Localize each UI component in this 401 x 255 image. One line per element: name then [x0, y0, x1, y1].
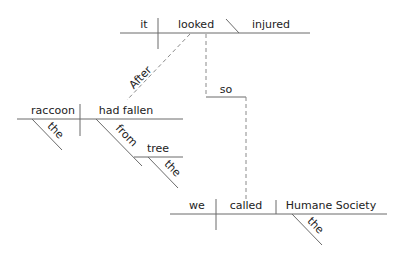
second-object: Humane Society: [286, 199, 377, 212]
object-modifier: the: [162, 158, 184, 180]
subordinate-subject: raccoon: [31, 104, 75, 117]
main-complement-slant: [226, 19, 239, 33]
prep-object: tree: [147, 142, 169, 155]
main-complement: injured: [252, 18, 290, 31]
second-subject: we: [189, 199, 205, 212]
conjunction-so: so: [220, 83, 233, 96]
main-verb: looked: [178, 18, 214, 31]
subject-modifier: the: [45, 120, 67, 142]
sentence-diagram: it looked injured After so raccoon had f…: [0, 0, 401, 255]
subordinate-verb: had fallen: [99, 104, 154, 117]
conjunction-after: After: [127, 63, 155, 91]
main-subject: it: [140, 18, 148, 31]
second-verb: called: [230, 199, 263, 212]
second-object-modifier: the: [305, 215, 327, 237]
preposition: from: [113, 122, 140, 149]
